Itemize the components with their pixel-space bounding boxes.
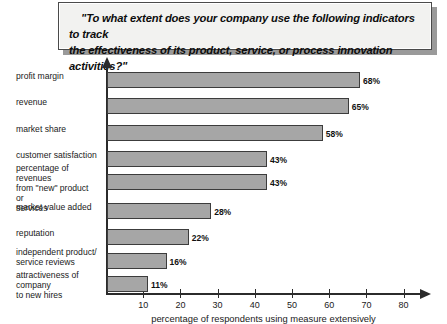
x-axis-tick: [180, 289, 181, 298]
category-label-line: market share: [16, 124, 98, 134]
bar: [107, 174, 267, 190]
category-label-line: to new hires: [16, 290, 98, 300]
category-label-line: from "new" product or: [16, 183, 98, 203]
x-axis-tick-label: 70: [354, 300, 378, 310]
category-label: market value added: [0, 202, 98, 212]
bar-value-label: 65%: [352, 102, 369, 112]
title-line-1: "To what extent does your company use th…: [69, 10, 423, 42]
bar-value-label: 11%: [151, 280, 168, 290]
category-label-line: percentage of revenues: [16, 163, 98, 183]
x-axis-tick: [218, 289, 219, 298]
category-label: reputation: [0, 228, 98, 238]
bar: [107, 98, 349, 114]
x-axis-tick-label: 40: [243, 300, 267, 310]
bar-chart: 1020304050607080 68%65%58%43%43%28%22%16…: [0, 55, 447, 323]
bar-value-label: 43%: [270, 155, 287, 165]
x-axis-tick-label: 50: [280, 300, 304, 310]
category-label: customer satisfaction: [0, 150, 98, 160]
x-axis-caption: percentage of respondents using measure …: [106, 313, 421, 324]
x-axis-tick-label: 80: [392, 300, 416, 310]
bar: [107, 253, 167, 269]
x-axis-tick: [329, 289, 330, 298]
x-axis-tick-label: 10: [131, 300, 155, 310]
category-label-line: attractiveness of company: [16, 270, 98, 290]
x-axis-tick-label: 20: [168, 300, 192, 310]
bar-value-label: 16%: [170, 257, 187, 267]
bar-value-label: 68%: [363, 76, 380, 86]
category-label-line: reputation: [16, 228, 98, 238]
bar: [107, 125, 323, 141]
category-label: profit margin: [0, 71, 98, 81]
x-axis-tick: [292, 289, 293, 298]
category-label-line: market value added: [16, 202, 98, 212]
bar: [107, 151, 267, 167]
bar-value-label: 22%: [192, 233, 209, 243]
category-label: revenue: [0, 97, 98, 107]
x-axis-tick: [255, 289, 256, 298]
x-axis-arrow-icon: [420, 289, 431, 299]
category-label-line: customer satisfaction: [16, 150, 98, 160]
x-axis-tick-label: 60: [317, 300, 341, 310]
bar: [107, 72, 360, 88]
category-label-line: profit margin: [16, 71, 98, 81]
x-axis-tick-label: 30: [206, 300, 230, 310]
category-label-line: service reviews: [16, 257, 98, 267]
category-label: independent product/service reviews: [0, 247, 98, 267]
category-label-line: revenue: [16, 97, 98, 107]
bar-value-label: 43%: [270, 178, 287, 188]
bar-value-label: 28%: [214, 207, 231, 217]
bar-value-label: 58%: [326, 129, 343, 139]
category-label: attractiveness of companyto new hires: [0, 270, 98, 300]
bar: [107, 203, 211, 219]
bar: [107, 276, 148, 292]
bar: [107, 229, 189, 245]
x-axis-tick: [366, 289, 367, 298]
x-axis-tick: [404, 289, 405, 298]
category-label: market share: [0, 124, 98, 134]
x-axis-line: [106, 293, 421, 295]
category-label-line: independent product/: [16, 247, 98, 257]
title-box: "To what extent does your company use th…: [58, 2, 432, 50]
